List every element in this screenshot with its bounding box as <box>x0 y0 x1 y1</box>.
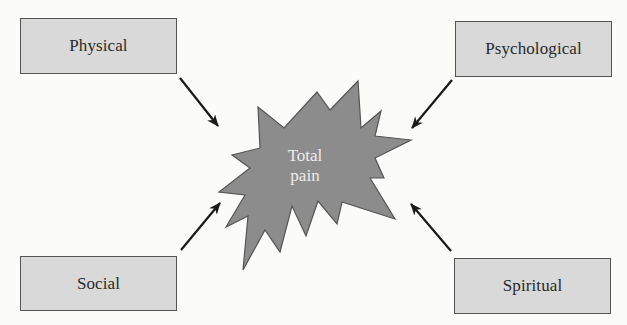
arrow-spiritual <box>411 204 451 251</box>
arrow-social <box>181 203 220 250</box>
diagram-canvas: Total pain Physical Psychological Social… <box>0 0 627 325</box>
node-psychological: Psychological <box>455 21 612 77</box>
node-spiritual-label: Spiritual <box>503 276 562 296</box>
node-social: Social <box>20 256 177 311</box>
center-label-line2: pain <box>265 166 345 186</box>
arrow-physical <box>180 78 218 126</box>
node-social-label: Social <box>77 274 120 294</box>
center-label-line1: Total <box>265 146 345 166</box>
total-pain-label: Total pain <box>265 146 345 186</box>
arrow-psychological <box>412 80 452 128</box>
node-psychological-label: Psychological <box>485 39 582 59</box>
node-physical: Physical <box>20 18 177 74</box>
node-physical-label: Physical <box>69 36 127 56</box>
node-spiritual: Spiritual <box>454 258 611 314</box>
